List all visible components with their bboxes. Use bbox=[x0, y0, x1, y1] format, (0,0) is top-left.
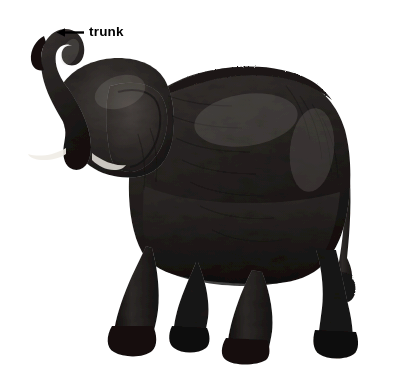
annotation-label-trunk: trunk bbox=[89, 25, 124, 39]
figure-root: trunk bbox=[0, 0, 397, 370]
annotation-trunk: trunk bbox=[56, 22, 124, 42]
elephant-photo bbox=[0, 0, 397, 370]
arrow-left-icon bbox=[56, 27, 84, 38]
